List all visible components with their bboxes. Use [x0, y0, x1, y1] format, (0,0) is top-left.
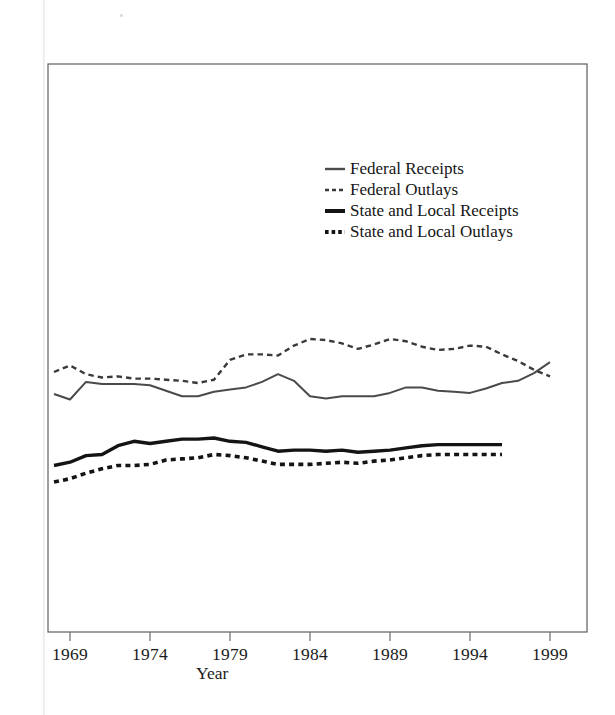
legend-label: Federal Outlays: [350, 181, 458, 198]
figure-root: 1969197419791984198919941999 Year Federa…: [0, 0, 615, 715]
chart-legend: Federal Receipts Federal Outlays State a…: [324, 158, 564, 242]
series-line-federal-receipts: [54, 362, 550, 399]
legend-label: Federal Receipts: [350, 160, 464, 177]
x-axis-tick-label: 1994: [452, 644, 488, 665]
plot-frame: [48, 64, 587, 632]
series-line-federal-outlays: [54, 339, 550, 383]
line-chart-plot: [0, 0, 615, 715]
x-axis-tick-marks: [70, 632, 550, 641]
x-axis-tick-label: 1989: [372, 644, 408, 665]
x-axis-tick-label: 1969: [52, 644, 88, 665]
x-axis-tick-label: 1974: [132, 644, 168, 665]
x-axis-tick-label: 1984: [292, 644, 328, 665]
legend-item-state-and-local-receipts: State and Local Receipts: [324, 200, 564, 221]
series-line-state-and-local-outlays: [54, 455, 502, 483]
x-axis-title: Year: [196, 663, 228, 684]
legend-item-federal-receipts: Federal Receipts: [324, 158, 564, 179]
x-axis-tick-label: 1979: [212, 644, 248, 665]
series-layer: [54, 339, 550, 482]
thick-solid-line-swatch: [324, 205, 346, 217]
thick-dashed-line-swatch: [324, 226, 346, 238]
legend-label: State and Local Outlays: [350, 223, 513, 240]
legend-item-federal-outlays: Federal Outlays: [324, 179, 564, 200]
thin-dashed-line-swatch: [324, 184, 346, 196]
series-line-state-and-local-receipts: [54, 438, 502, 466]
thin-solid-line-swatch: [324, 163, 346, 175]
x-axis-tick-label: 1999: [532, 644, 568, 665]
legend-item-state-and-local-outlays: State and Local Outlays: [324, 221, 564, 242]
legend-label: State and Local Receipts: [350, 202, 519, 219]
